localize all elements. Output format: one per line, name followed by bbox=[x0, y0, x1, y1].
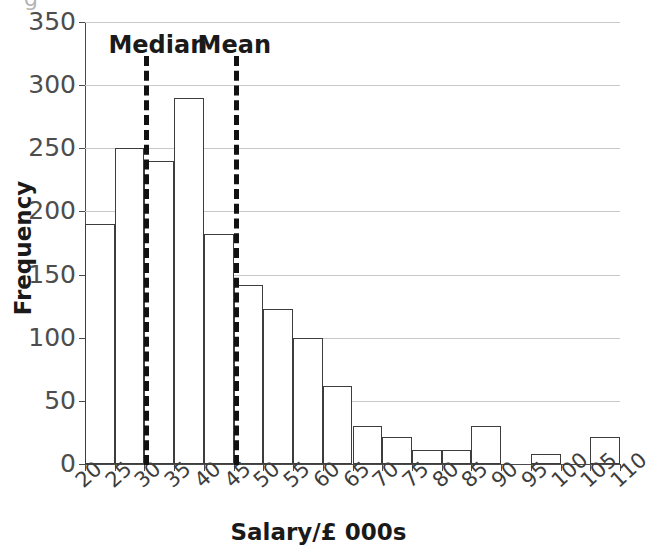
y-axis-title: Frequency bbox=[10, 148, 36, 348]
gridline bbox=[85, 85, 620, 86]
histogram-bar bbox=[293, 338, 323, 464]
annotation-label-median: Median bbox=[108, 33, 207, 57]
y-axis-tick-label: 350 bbox=[10, 9, 76, 34]
histogram-bar bbox=[204, 234, 234, 464]
histogram-bar bbox=[85, 224, 115, 464]
x-axis-title: Salary/£ 000s bbox=[0, 519, 637, 545]
annotation-label-mean: Mean bbox=[198, 33, 271, 57]
y-axis-tick-label: 50 bbox=[10, 388, 76, 413]
histogram-bar bbox=[174, 98, 204, 464]
histogram-bar bbox=[323, 386, 353, 464]
y-axis-tick-label: 250 bbox=[10, 135, 76, 160]
y-axis-tick-label: 300 bbox=[10, 72, 76, 97]
histogram-bar bbox=[115, 148, 145, 464]
y-axis-tick-label: 100 bbox=[10, 325, 76, 350]
gridline bbox=[85, 148, 620, 149]
annotation-line-mean bbox=[234, 56, 239, 465]
annotation-line-median bbox=[144, 56, 149, 465]
gridline bbox=[85, 22, 620, 23]
histogram-bar bbox=[263, 309, 293, 464]
y-axis-tick-label: 150 bbox=[10, 262, 76, 287]
y-axis-tick-label: 200 bbox=[10, 198, 76, 223]
y-axis-tick-label: 0 bbox=[10, 451, 76, 476]
plot-area bbox=[85, 22, 620, 464]
